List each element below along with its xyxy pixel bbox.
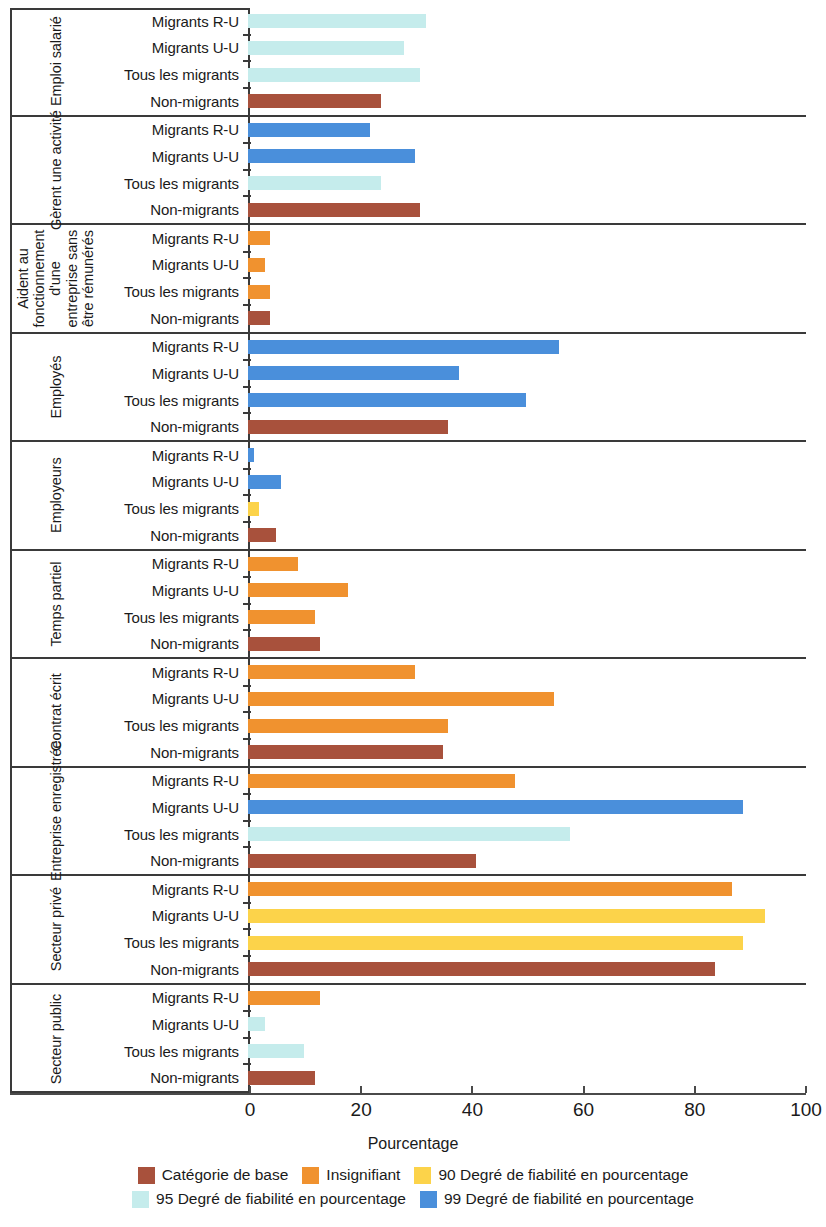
bar [248,340,559,354]
legend-swatch-icon [138,1167,155,1184]
bar [248,502,259,516]
bar-row-label: Tous les migrants [100,500,248,517]
bar-row: Migrants U-U [100,360,806,387]
bar-row-label: Migrants R-U [100,989,248,1006]
x-axis-tick-label: 40 [462,1099,483,1121]
bar-row-label: Non-migrants [100,93,248,110]
x-axis-tick [360,1086,362,1093]
bar [248,936,743,950]
bar [248,745,443,759]
bar-track [248,61,806,88]
legend-swatch-icon [132,1191,149,1208]
bar-track [248,170,806,197]
bar-row: Migrants R-U [100,442,806,469]
bar-track [248,469,806,496]
bar [248,393,526,407]
group-label-text: Secteur public [48,993,64,1084]
bar-row: Migrants U-U [100,35,806,62]
bar-group: Contrat écritMigrants R-UMigrants U-UTou… [10,659,806,768]
bar-row: Migrants U-U [100,252,806,279]
legend-row-primary: Catégorie de baseInsignifiant90 Degré de… [0,1166,826,1184]
bar-track [248,847,806,874]
bar-chart-figure: Emploi salariéMigrants R-UMigrants U-UTo… [0,0,826,1227]
bar-track [248,495,806,522]
x-axis-tick-label: 0 [245,1099,256,1121]
x-axis-left-extension [10,1093,250,1095]
bar-row-label: Migrants U-U [100,39,248,56]
bar [248,827,570,841]
bar-group: Temps partielMigrants R-UMigrants U-UTou… [10,551,806,660]
bar [248,420,448,434]
bar-track [248,712,806,739]
bar-row-label: Tous les migrants [100,717,248,734]
bar-track [248,739,806,766]
bar-row: Tous les migrants [100,170,806,197]
bar-row-label: Migrants R-U [100,447,248,464]
bar [248,610,315,624]
x-axis-tick [583,1086,585,1093]
bar-row: Tous les migrants [100,604,806,631]
group-label-text: Temps partiel [48,561,64,646]
bar-row-label: Migrants R-U [100,230,248,247]
group-label: Emploi salarié [12,8,100,115]
bar-row: Migrants R-U [100,768,806,795]
bar [248,448,254,462]
bar-track [248,768,806,795]
bar-row: Migrants R-U [100,876,806,903]
bar-track [248,659,806,686]
bar [248,1071,315,1085]
bar [248,774,515,788]
bar-row-label: Tous les migrants [100,392,248,409]
bar-track [248,1011,806,1038]
bar [248,123,370,137]
x-axis-tick [805,1086,807,1093]
legend-row-secondary: 95 Degré de fiabilité en pourcentage99 D… [0,1190,826,1208]
bar-row: Migrants R-U [100,985,806,1012]
bar-row-label: Non-migrants [100,852,248,869]
bar-track [248,413,806,440]
bar [248,991,320,1005]
bar [248,637,320,651]
bar-row: Non-migrants [100,1064,806,1091]
group-label: Secteur public [12,985,100,1094]
group-label: Temps partiel [12,551,100,658]
x-axis: 020406080100 [250,1093,806,1095]
bar-row-label: Non-migrants [100,1069,248,1086]
group-label: Employeurs [12,442,100,549]
bar-group: Entreprise enregistréeMigrants R-UMigran… [10,768,806,877]
bar-row: Migrants U-U [100,794,806,821]
bar-track [248,117,806,144]
bar-row: Non-migrants [100,956,806,983]
bar-row: Non-migrants [100,522,806,549]
bar [248,528,276,542]
bar [248,176,381,190]
group-rows: Migrants R-UMigrants U-UTous les migrant… [100,876,806,983]
bar-row-label: Tous les migrants [100,609,248,626]
bar [248,149,415,163]
bar-track [248,551,806,578]
group-label: Entreprise enregistrée [12,768,100,875]
bar-row-label: Non-migrants [100,635,248,652]
group-rows: Migrants R-UMigrants U-UTous les migrant… [100,334,806,441]
bar-group: Gèrent une activitéMigrants R-UMigrants … [10,117,806,226]
bar-row: Tous les migrants [100,712,806,739]
bar-track [248,196,806,223]
bar [248,475,281,489]
legend-label: Catégorie de base [162,1166,289,1184]
legend-label: 90 Degré de fiabilité en pourcentage [438,1166,688,1184]
bar-track [248,1064,806,1091]
legend-item: Insignifiant [302,1166,400,1184]
bar-row-label: Tous les migrants [100,1043,248,1060]
legend-swatch-icon [414,1167,431,1184]
bar-row-label: Migrants R-U [100,555,248,572]
bar [248,1017,265,1031]
legend-item: 95 Degré de fiabilité en pourcentage [132,1190,406,1208]
legend-swatch-icon [302,1167,319,1184]
group-rows: Migrants R-UMigrants U-UTous les migrant… [100,768,806,875]
bar-row-label: Tous les migrants [100,283,248,300]
bar-row: Tous les migrants [100,278,806,305]
bar-group: Secteur privéMigrants R-UMigrants U-UTou… [10,876,806,985]
bar [248,258,265,272]
bar-row: Migrants R-U [100,225,806,252]
bar-group: EmployeursMigrants R-UMigrants U-UTous l… [10,442,806,551]
